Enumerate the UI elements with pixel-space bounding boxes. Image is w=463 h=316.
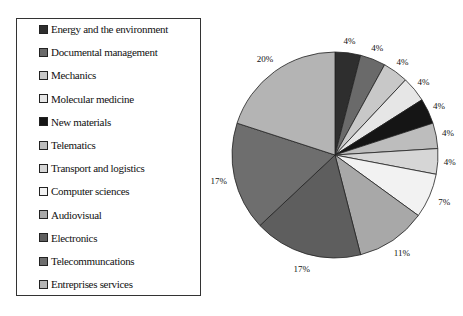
slice-percent-label: 4% [433,101,446,111]
pie-chart: 4%4%4%4%4%4%4%7%11%17%17%20% [0,0,463,316]
slice-percent-label: 7% [438,197,451,207]
slice-percent-label: 4% [343,36,356,46]
slice-percent-label: 4% [397,57,410,67]
slice-percent-label: 4% [444,157,457,167]
slice-percent-label: 4% [371,43,384,53]
slice-percent-label: 17% [211,176,228,186]
slice-percent-label: 20% [257,54,274,64]
slice-percent-label: 4% [418,77,431,87]
slice-percent-label: 11% [394,248,411,258]
slice-percent-label: 4% [442,128,455,138]
slice-percent-label: 17% [294,264,311,274]
